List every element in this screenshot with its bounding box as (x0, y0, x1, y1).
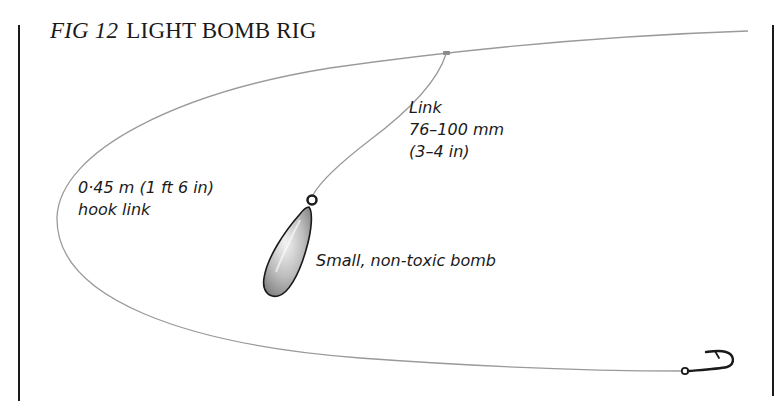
link-title: Link (409, 97, 504, 119)
bomb-weight-icon (264, 207, 312, 296)
swivel-ring-icon (308, 196, 317, 205)
link-length-in: (3–4 in) (409, 141, 504, 163)
bomb-label: Small, non-toxic bomb (316, 250, 496, 272)
hook-link-text: hook link (78, 199, 214, 221)
hook-link-length: 0·45 m (1 ft 6 in) (78, 177, 214, 199)
hook-link-label: 0·45 m (1 ft 6 in) hook link (78, 177, 214, 221)
link-length-mm: 76–100 mm (409, 119, 504, 141)
hook-icon (682, 351, 733, 374)
link-label: Link 76–100 mm (3–4 in) (409, 97, 504, 163)
